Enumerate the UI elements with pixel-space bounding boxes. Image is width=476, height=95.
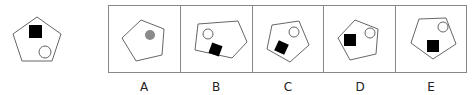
option-d-figure[interactable] xyxy=(338,20,378,60)
white-circle-icon xyxy=(438,22,448,32)
option-a-label: A xyxy=(134,80,154,94)
white-circle-icon xyxy=(203,29,213,39)
option-c-label: C xyxy=(278,80,298,94)
black-square-icon xyxy=(427,40,439,52)
option-c-figure[interactable] xyxy=(267,21,309,62)
option-b-label: B xyxy=(206,80,226,94)
pentagon-shape xyxy=(195,21,247,58)
option-e-label: E xyxy=(421,80,441,94)
pentagon-shape xyxy=(13,17,61,61)
option-a-figure[interactable] xyxy=(122,20,164,61)
pentagon-shape xyxy=(411,18,456,59)
black-square-icon xyxy=(344,34,356,46)
option-d-label: D xyxy=(350,80,370,94)
puzzle-diagram xyxy=(0,0,476,95)
black-square-icon xyxy=(29,25,42,38)
gray-circle-icon xyxy=(145,30,155,40)
option-e-figure[interactable] xyxy=(411,18,456,59)
pentagon-shape xyxy=(267,21,309,62)
white-circle-icon xyxy=(365,28,375,38)
white-circle-icon xyxy=(289,27,299,37)
option-b-figure[interactable] xyxy=(195,21,247,58)
pentagon-shape xyxy=(122,20,164,61)
question-figure xyxy=(13,17,61,61)
white-circle-icon xyxy=(39,46,51,58)
